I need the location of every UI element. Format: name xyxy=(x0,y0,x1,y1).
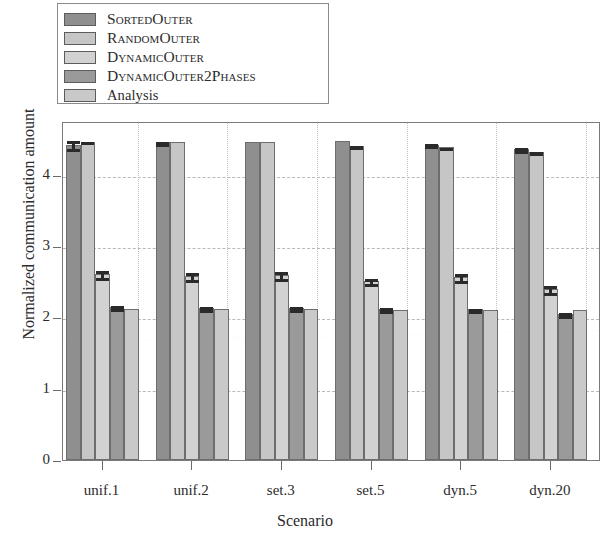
legend-item-label: Analysis xyxy=(107,88,159,103)
legend-swatch-icon xyxy=(64,32,96,45)
error-bar xyxy=(111,306,124,312)
x-axis-tick-mark xyxy=(550,461,551,470)
y-axis-tick-mark xyxy=(53,176,61,177)
bar xyxy=(483,310,498,460)
x-axis-tick-mark xyxy=(371,461,372,470)
error-bar xyxy=(200,307,213,313)
bar xyxy=(379,309,394,460)
bar xyxy=(529,152,544,460)
error-bar xyxy=(544,286,557,296)
error-bar xyxy=(186,273,199,283)
bar xyxy=(393,310,408,460)
y-axis-tick-mark xyxy=(53,247,61,248)
legend-item: DynamicOuter2Phases xyxy=(64,67,328,85)
x-axis-tick-mark xyxy=(102,461,103,470)
bar xyxy=(289,308,304,460)
error-bar xyxy=(275,272,288,282)
legend-swatch-icon xyxy=(64,51,96,64)
bar xyxy=(124,309,139,460)
y-axis-tick-label: 0 xyxy=(28,451,50,468)
error-bar xyxy=(469,309,482,315)
error-bar xyxy=(455,274,468,284)
legend-item-label: DynamicOuter2Phases xyxy=(107,68,256,84)
bar xyxy=(514,149,529,460)
y-axis-tick-mark xyxy=(53,318,61,319)
x-axis-tick-mark xyxy=(460,461,461,470)
x-axis-tick-mark xyxy=(281,461,282,470)
error-bar xyxy=(96,271,109,281)
bar xyxy=(364,281,379,460)
y-axis-tick-mark xyxy=(53,390,61,391)
bar xyxy=(110,307,125,460)
y-axis-tick-label: 3 xyxy=(28,237,50,254)
bar xyxy=(468,309,483,460)
legend-item: RandomOuter xyxy=(64,29,328,47)
error-bar xyxy=(559,313,572,319)
x-axis-tick-label: unif.1 xyxy=(57,482,147,499)
error-bar xyxy=(515,148,528,154)
legend-item-label: SortedOuter xyxy=(107,11,193,27)
legend-swatch-icon xyxy=(64,89,96,102)
bar xyxy=(95,274,110,460)
bar xyxy=(66,145,81,460)
bar xyxy=(573,310,588,460)
bar xyxy=(304,309,319,460)
x-axis-tick-label: unif.2 xyxy=(146,482,236,499)
error-bar xyxy=(380,308,393,314)
bar xyxy=(454,277,469,460)
bar xyxy=(81,142,96,460)
bar xyxy=(275,275,290,460)
legend-item: SortedOuter xyxy=(64,10,328,28)
error-bar xyxy=(365,279,378,288)
bar-chart-figure: SortedOuterRandomOuterDynamicOuterDynami… xyxy=(0,0,610,538)
bar xyxy=(425,145,440,460)
bar xyxy=(335,141,350,460)
bar xyxy=(156,142,171,460)
chart-legend: SortedOuterRandomOuterDynamicOuterDynami… xyxy=(57,3,329,104)
y-axis-label: Normalized communication amount xyxy=(20,74,38,374)
error-bar xyxy=(530,152,543,156)
x-axis-tick-label: dyn.5 xyxy=(415,482,505,499)
error-bar xyxy=(81,142,94,145)
x-axis-tick-label: set.5 xyxy=(326,482,416,499)
legend-item-label: DynamicOuter xyxy=(107,49,204,65)
legend-swatch-icon xyxy=(64,13,96,26)
bar xyxy=(199,308,214,460)
bar xyxy=(439,147,454,460)
error-bar xyxy=(156,142,169,148)
y-axis-tick-label: 2 xyxy=(28,308,50,325)
bar xyxy=(544,289,559,460)
bar xyxy=(350,146,365,460)
bar xyxy=(260,142,275,460)
error-bar xyxy=(290,307,303,313)
legend-item: Analysis xyxy=(64,86,328,104)
x-axis-tick-label: set.3 xyxy=(236,482,326,499)
bar xyxy=(185,276,200,460)
bar xyxy=(214,309,229,460)
x-axis-tick-label: dyn.20 xyxy=(505,482,595,499)
y-axis-tick-label: 4 xyxy=(28,166,50,183)
error-bar xyxy=(350,147,363,150)
bar xyxy=(558,314,573,460)
error-bar xyxy=(67,141,80,152)
y-axis-tick-mark xyxy=(53,461,61,462)
bar xyxy=(245,142,260,460)
legend-item: DynamicOuter xyxy=(64,48,328,66)
x-axis-tick-mark xyxy=(191,461,192,470)
legend-item-label: RandomOuter xyxy=(107,30,200,46)
bar xyxy=(170,142,185,460)
x-axis-label: Scenario xyxy=(0,512,610,530)
y-axis-tick-label: 1 xyxy=(28,380,50,397)
plot-area xyxy=(62,122,600,461)
error-bar xyxy=(440,148,453,151)
legend-swatch-icon xyxy=(64,70,96,83)
error-bar xyxy=(425,144,438,148)
